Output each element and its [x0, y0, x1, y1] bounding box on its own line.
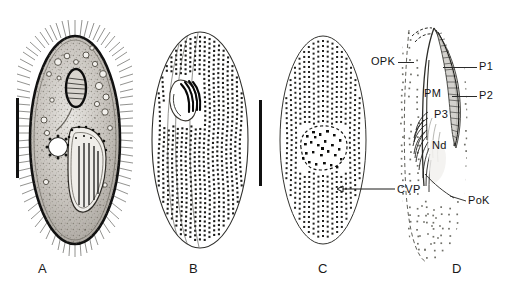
label-p2: P2: [479, 89, 493, 101]
panel-letter-c: C: [318, 261, 328, 276]
panel-d: D: [398, 0, 510, 288]
panel-letter-a: A: [38, 261, 47, 276]
panel-letter-d: D: [452, 261, 462, 276]
panel-b-drawing: [148, 0, 273, 288]
contractile-vacuole-a: [46, 135, 71, 160]
posterior-cortex-d: [419, 205, 441, 251]
label-pm: PM: [424, 87, 441, 99]
leader-opk: [398, 62, 414, 63]
panel-d-drawing: [398, 0, 510, 288]
panel-c: C: [277, 0, 407, 288]
panel-a-drawing: [0, 0, 150, 288]
label-p1: P1: [479, 60, 493, 72]
scale-bar-b: [259, 100, 262, 186]
figure-plate: A: [0, 0, 510, 288]
leader-p2: [452, 96, 477, 97]
label-pok: PoK: [468, 194, 490, 206]
macronucleus-a: [66, 69, 86, 107]
paroral-membrane-d: [427, 60, 429, 140]
cell-outline-c: [280, 36, 366, 244]
panel-letter-b: B: [189, 261, 198, 276]
panel-c-drawing: [277, 0, 407, 288]
leader-p1: [443, 67, 477, 68]
label-p3: P3: [434, 108, 448, 120]
label-opk: OPK: [371, 55, 395, 67]
panel-a: A: [0, 0, 150, 288]
label-nd: Nd: [432, 139, 447, 151]
scale-bar-a: [16, 98, 19, 178]
panel-b: B: [148, 0, 273, 288]
